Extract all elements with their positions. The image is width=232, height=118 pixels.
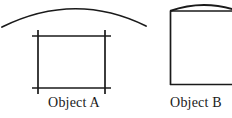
figure-container: Object A Object B: [0, 0, 232, 118]
object-b-caption: Object B: [160, 95, 232, 111]
object-a-caption: Object A: [0, 95, 148, 111]
